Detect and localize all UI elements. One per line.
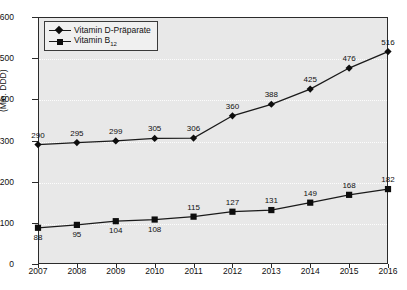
x-tick-mark [116, 264, 117, 268]
data-point-label: 299 [101, 128, 131, 136]
data-point-label: 425 [295, 76, 325, 84]
diamond-marker-icon [49, 25, 71, 36]
x-tick-mark [38, 264, 39, 268]
data-point-label: 360 [217, 103, 247, 111]
data-point-label: 182 [373, 176, 403, 184]
x-tick-mark [388, 264, 389, 268]
y-tick-label: 100 [0, 219, 14, 228]
x-tick-label: 2013 [249, 267, 293, 276]
x-tick-mark [349, 264, 350, 268]
y-tick-label: 500 [0, 54, 14, 63]
x-tick-mark [194, 264, 195, 268]
x-tick-label: 2010 [133, 267, 177, 276]
data-point-label: 168 [334, 182, 364, 190]
data-point-label: 88 [23, 234, 53, 242]
chart-legend: Vitamin D-Präparate Vitamin B12 [44, 21, 158, 51]
data-point-label: 388 [256, 91, 286, 99]
x-tick-label: 2012 [210, 267, 254, 276]
data-point-label: 516 [373, 39, 403, 47]
legend-label-vitamin-d: Vitamin D-Präparate [74, 26, 151, 35]
data-point-label: 115 [179, 204, 209, 212]
grid-line [39, 100, 387, 101]
data-point-label: 127 [217, 199, 247, 207]
grid-line [39, 224, 387, 225]
y-tick-label: 0 [0, 260, 14, 269]
y-tick-label: 300 [0, 137, 14, 146]
x-tick-mark [310, 264, 311, 268]
x-tick-label: 2009 [94, 267, 138, 276]
x-tick-label: 2007 [16, 267, 60, 276]
x-tick-label: 2016 [366, 267, 407, 276]
x-tick-mark [232, 264, 233, 268]
data-point-label: 108 [140, 226, 170, 234]
data-point-label: 95 [62, 231, 92, 239]
data-point-label: 295 [62, 130, 92, 138]
data-point-label: 131 [256, 197, 286, 205]
x-tick-label: 2008 [55, 267, 99, 276]
x-tick-label: 2015 [327, 267, 371, 276]
data-point-label: 104 [101, 227, 131, 235]
data-point-label: 305 [140, 125, 170, 133]
y-axis-label: (Mio. DDD) [0, 70, 8, 113]
legend-label-vitamin-b12: Vitamin B12 [74, 36, 117, 47]
y-tick-label: 400 [0, 95, 14, 104]
data-point-label: 476 [334, 55, 364, 63]
data-point-label: 290 [23, 132, 53, 140]
x-tick-mark [77, 264, 78, 268]
x-tick-label: 2014 [288, 267, 332, 276]
grid-line [39, 142, 387, 143]
square-marker-icon [49, 36, 71, 47]
y-tick-label: 600 [0, 13, 14, 22]
data-point-label: 306 [179, 125, 209, 133]
data-point-label: 149 [295, 190, 325, 198]
legend-item-vitamin-b12: Vitamin B12 [49, 36, 151, 47]
x-tick-mark [155, 264, 156, 268]
x-tick-mark [271, 264, 272, 268]
y-tick-label: 200 [0, 178, 14, 187]
chart-figure: (Mio. DDD) 0100200300400500600 200720082… [0, 0, 407, 290]
x-tick-label: 2011 [172, 267, 216, 276]
